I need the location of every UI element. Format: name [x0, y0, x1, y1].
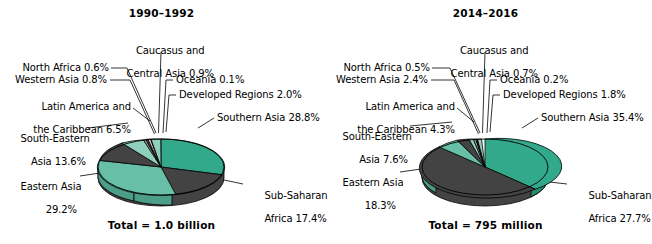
- panel-2014-2016: 2014–2016: [324, 0, 647, 244]
- label-western-asia-right: Western Asia 2.4%: [329, 74, 428, 86]
- label-southern-asia-right: Southern Asia 35.4%: [541, 112, 644, 124]
- panel-total-left: Total = 1.0 billion: [0, 219, 323, 231]
- label-eastern-asia-right: Eastern Asia 18.3%: [324, 165, 396, 223]
- label-southern-asia-left: Southern Asia 28.8%: [217, 112, 320, 124]
- label-north-africa-right: North Africa 0.5%: [331, 62, 430, 74]
- label-developed-regions-left: Developed Regions 2.0%: [179, 89, 302, 101]
- label-oceania-left: Oceania 0.1%: [176, 74, 244, 86]
- pie-body-right: [419, 138, 561, 206]
- panel-total-right: Total = 795 million: [324, 219, 647, 231]
- label-western-asia-left: Western Asia 0.8%: [8, 74, 107, 86]
- label-oceania-right: Oceania 0.2%: [500, 74, 568, 86]
- label-eastern-asia-left: Eastern Asia 29.2%: [2, 169, 77, 227]
- pie-body-left: [97, 139, 224, 206]
- label-developed-regions-right: Developed Regions 1.8%: [503, 89, 626, 101]
- panel-1990-1992: 1990–1992: [0, 0, 323, 244]
- label-north-africa-left: North Africa 0.6%: [10, 62, 109, 74]
